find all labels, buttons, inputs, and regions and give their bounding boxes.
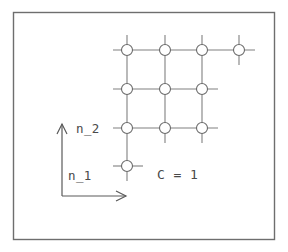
horizontal-axis-label: n_1 (68, 168, 92, 183)
lattice-node (234, 45, 245, 56)
lattice-node (197, 84, 208, 95)
figure-root: n_2 n_1 C = 1 (0, 0, 288, 252)
lattice-node (160, 45, 171, 56)
lattice-node (122, 45, 133, 56)
lattice-node (122, 84, 133, 95)
lattice-node (122, 123, 133, 134)
annotation-label: C = 1 (157, 167, 198, 182)
lattice-node (197, 45, 208, 56)
lattice-node (197, 123, 208, 134)
vertical-axis-label: n_2 (76, 121, 100, 136)
lattice-diagram-canvas: n_2 n_1 C = 1 (0, 0, 288, 252)
lattice-node (122, 161, 133, 172)
lattice-node (160, 84, 171, 95)
lattice-node (160, 123, 171, 134)
